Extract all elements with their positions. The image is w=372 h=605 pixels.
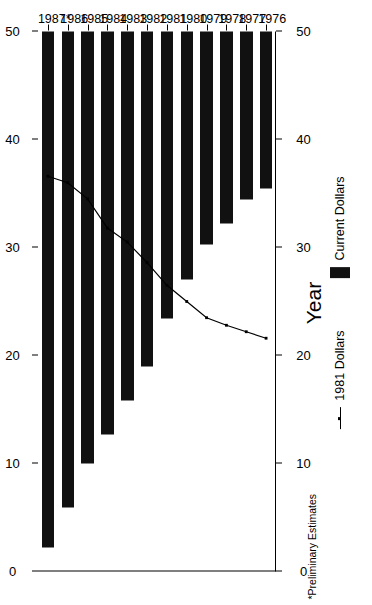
legend-label-bar: Current Dollars (333, 176, 347, 260)
value-tick (276, 462, 282, 463)
line-marker (225, 323, 228, 326)
line-path (48, 176, 266, 338)
value-tick-label: 30 (5, 241, 19, 254)
value-tick-label: 10 (296, 457, 310, 470)
line-marker (66, 181, 69, 184)
line-series (38, 31, 276, 571)
line-marker (265, 336, 268, 339)
value-tick-label: 20 (296, 349, 310, 362)
plot-area: 01020304050 01020304050 1976197719781979… (38, 31, 276, 571)
category-label: 1987* (38, 13, 71, 26)
value-tick-label: 40 (5, 133, 19, 146)
value-tick-label: 20 (5, 349, 19, 362)
value-tick-label: 10 (5, 457, 19, 470)
line-marker (126, 240, 129, 243)
value-tick (276, 138, 282, 139)
value-tick-label: 50 (5, 25, 19, 38)
value-tick (276, 30, 282, 31)
line-marker (245, 330, 248, 333)
value-tick-label: 50 (296, 25, 310, 38)
value-tick-label: 30 (296, 241, 310, 254)
value-tick-label: 0 (9, 565, 16, 578)
legend-item-line: 1981 Dollars (330, 330, 350, 429)
line-swatch-icon (330, 407, 350, 429)
chart-canvas: $ (Billions) (Canadian) 01020304050 0102… (0, 0, 372, 605)
value-tick (276, 570, 282, 571)
legend: 1981 Dollars Current Dollars (330, 176, 350, 429)
value-tick (276, 354, 282, 355)
bar-swatch-icon (330, 267, 350, 278)
value-tick-label: 40 (296, 133, 310, 146)
value-tick (276, 246, 282, 247)
category-axis-title: Year (302, 281, 326, 323)
line-marker (47, 174, 50, 177)
footnote: *Preliminary Estimates (306, 493, 318, 599)
legend-label-line: 1981 Dollars (333, 330, 347, 400)
legend-item-bar: Current Dollars (330, 176, 350, 278)
